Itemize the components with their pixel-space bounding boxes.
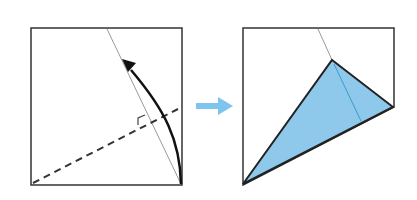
origami-diagram (0, 0, 417, 200)
diagram-canvas (0, 0, 417, 200)
transition-arrow-icon (196, 97, 233, 115)
step-before (31, 28, 182, 185)
step-after (243, 28, 394, 185)
